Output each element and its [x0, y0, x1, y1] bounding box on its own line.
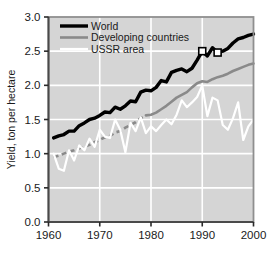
legend-label-ussr-area: USSR area — [91, 43, 144, 55]
x-tick-label: 2000 — [241, 229, 267, 241]
y-tick-label: 3.0 — [25, 11, 41, 23]
x-tick-label: 1970 — [87, 229, 113, 241]
marker-open-square — [199, 48, 206, 55]
chart-figure: 19601970198019902000 0.00.51.01.52.02.53… — [0, 0, 270, 253]
y-tick-label: 1.5 — [25, 114, 41, 126]
marker-open-square — [214, 49, 221, 56]
y-tick-label: 2.5 — [25, 45, 41, 57]
legend-label-world: World — [91, 20, 118, 32]
legend-label-developing-countries: Developing countries — [91, 31, 189, 43]
y-axis-title: Yield, ton per hectare — [5, 70, 17, 170]
yield-line-chart: 19601970198019902000 0.00.51.01.52.02.53… — [0, 0, 270, 253]
y-axis-title-text: Yield, ton per hectare — [5, 70, 17, 170]
x-tick-label: 1980 — [138, 229, 164, 241]
y-tick-label: 1.0 — [25, 148, 41, 160]
x-tick-label: 1990 — [189, 229, 215, 241]
x-tick-label: 1960 — [36, 229, 62, 241]
y-tick-label: 0.5 — [25, 182, 41, 194]
y-tick-label: 2.0 — [25, 79, 41, 91]
y-tick-label: 0.0 — [25, 216, 41, 228]
